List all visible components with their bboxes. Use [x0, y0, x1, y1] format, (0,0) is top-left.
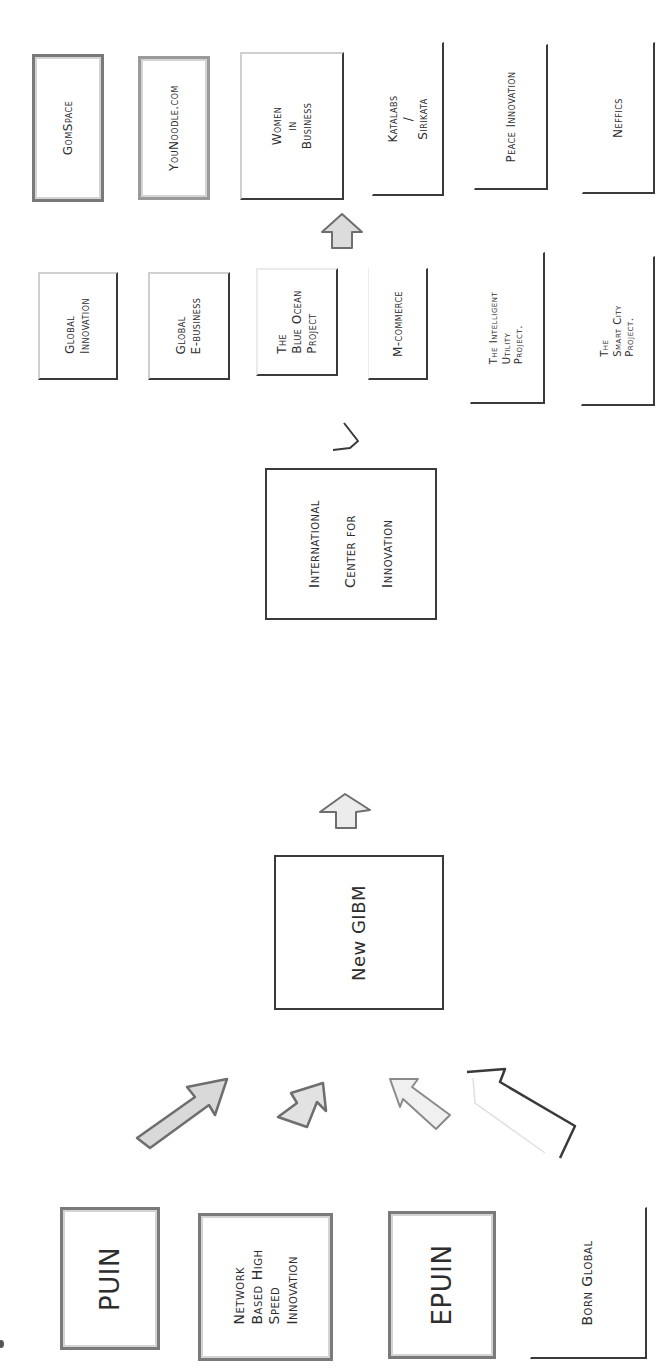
label-line: Global	[63, 298, 78, 354]
project-label: Global E-business	[174, 298, 204, 355]
label-line: Sirikata	[415, 95, 430, 142]
label-line: Utility	[501, 291, 514, 364]
squiggle-connector-icon	[330, 420, 370, 455]
source-box-puin: PUIN	[60, 1207, 160, 1350]
label-line: in	[285, 103, 300, 150]
project-label: Global Innovation	[63, 298, 93, 354]
arrow-puin-to-gibm-icon	[135, 1075, 235, 1155]
project-box-intelligent-utility: The Intelligent Utility Project.	[470, 252, 545, 404]
label-line: Katalabs	[385, 95, 400, 142]
source-label-epuin: EPUIN	[426, 1245, 459, 1326]
outcome-label: GomSpace	[61, 101, 76, 155]
arrow-born-global-to-gibm-icon	[465, 1068, 585, 1158]
arrow-projects-up-icon	[320, 212, 366, 254]
label-line: E-business	[189, 298, 204, 355]
arrow-epuin-to-gibm-icon	[390, 1075, 460, 1135]
hub-box-international-center: International Center for Innovation	[265, 468, 437, 620]
project-label: The Intelligent Utility Project.	[488, 291, 526, 364]
label-line: Network	[231, 1249, 249, 1324]
outcome-box-peace-innovation: Peace Innovation	[474, 44, 548, 190]
project-label: M-commerce	[390, 290, 405, 356]
source-label-born-global: Born Global	[579, 1240, 597, 1325]
project-box-smart-city: The Smart City Project.	[581, 256, 655, 406]
margin-mark	[0, 1340, 4, 1348]
project-label: The Blue Ocean Project	[275, 290, 320, 354]
label-line: Innovation	[283, 1249, 301, 1324]
label-line: YouNoodle.com	[167, 85, 182, 171]
outcome-box-katalabs: Katalabs / Sirikata	[372, 42, 444, 196]
outcome-label: Katalabs / Sirikata	[385, 95, 430, 142]
label-line: Business	[300, 103, 315, 150]
source-label-network: Network Based High Speed Innovation	[231, 1249, 301, 1324]
label-line: Neffics	[611, 98, 626, 138]
label-line: Project	[305, 290, 320, 354]
label-line: New GIBM	[348, 884, 371, 980]
project-label: The Smart City Project.	[599, 305, 637, 357]
label-line: Center for	[333, 500, 369, 588]
label-line: The	[275, 290, 290, 354]
label-line: Speed	[266, 1249, 284, 1324]
source-label-puin: PUIN	[94, 1247, 127, 1311]
label-line: /	[400, 95, 415, 142]
project-box-blue-ocean: The Blue Ocean Project	[256, 268, 338, 376]
label-line: EPUIN	[426, 1245, 459, 1326]
outcome-label: YouNoodle.com	[167, 85, 182, 171]
label-line: GomSpace	[61, 101, 76, 155]
project-box-m-commerce: M-commerce	[368, 268, 428, 380]
label-line: Based High	[248, 1249, 266, 1324]
outcome-box-women-in-business: Women in Business	[240, 52, 344, 200]
source-box-epuin: EPUIN	[388, 1211, 496, 1359]
outcome-label: Neffics	[611, 98, 626, 138]
arrow-network-to-gibm-icon	[275, 1075, 335, 1135]
label-line: PUIN	[94, 1247, 127, 1311]
label-line: Global	[174, 298, 189, 355]
outcome-box-gomspace: GomSpace	[32, 54, 104, 202]
center-box-new-gibm: New GIBM	[274, 855, 444, 1010]
label-line: Blue Ocean	[290, 290, 305, 354]
label-line: Innovation	[369, 500, 405, 588]
label-line: The	[599, 305, 612, 357]
label-line: Born Global	[579, 1240, 597, 1325]
center-label: New GIBM	[348, 884, 371, 980]
label-line: M-commerce	[390, 290, 405, 356]
label-line: Smart City	[611, 305, 624, 357]
project-box-global-ebusiness: Global E-business	[148, 272, 230, 380]
label-line: International	[296, 500, 332, 588]
label-line: Project.	[513, 291, 526, 364]
label-line: Women	[270, 103, 285, 150]
source-box-born-global: Born Global	[530, 1207, 647, 1359]
outcome-label: Women in Business	[270, 103, 315, 150]
arrow-gibm-up-icon	[318, 792, 373, 837]
label-line: Peace Innovation	[503, 71, 518, 162]
project-box-global-innovation: Global Innovation	[38, 272, 118, 380]
label-line: Innovation	[78, 298, 93, 354]
hub-label: International Center for Innovation	[296, 500, 405, 588]
outcome-box-younoodle: YouNoodle.com	[138, 56, 210, 200]
source-box-network: Network Based High Speed Innovation	[198, 1213, 333, 1361]
outcome-label: Peace Innovation	[503, 71, 518, 162]
label-line: Project.	[624, 305, 637, 357]
label-line: The Intelligent	[488, 291, 501, 364]
outcome-box-neffics: Neffics	[582, 42, 655, 194]
